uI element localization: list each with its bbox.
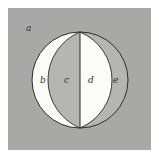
label-c: c (64, 75, 69, 85)
label-e: e (113, 75, 118, 85)
lune-diagram: a b c d e (0, 0, 159, 156)
label-b: b (40, 75, 46, 85)
label-a: a (26, 23, 31, 33)
label-d: d (88, 75, 94, 85)
